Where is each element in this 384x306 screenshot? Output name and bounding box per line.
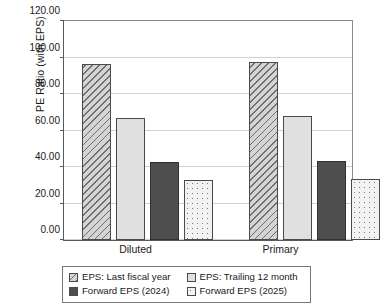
legend-swatch-light-icon (187, 273, 196, 282)
legend-label-1: EPS: Trailing 12 month (200, 270, 298, 284)
legend-item-forward-eps-2025[interactable]: Forward EPS (2025) (187, 284, 305, 298)
y-tick-label-2: 40.00 (35, 151, 60, 162)
bar-diluted-forward-eps-2024[interactable] (150, 162, 179, 240)
y-tick-label-0: 0.00 (41, 224, 60, 235)
y-tick-label-6: 120.00 (29, 5, 60, 16)
bar-primary-forward-eps-2024[interactable] (317, 161, 346, 240)
x-tick-label-diluted: Diluted (63, 243, 208, 255)
bar-group-primary (231, 21, 384, 240)
legend-swatch-dots-icon (187, 287, 196, 296)
legend-label-2: Forward EPS (2024) (82, 284, 169, 298)
y-tick-label-1: 20.00 (35, 187, 60, 198)
y-tick-label-3: 60.00 (35, 114, 60, 125)
legend-item-eps-trailing-12-month[interactable]: EPS: Trailing 12 month (187, 270, 305, 284)
legend-swatch-hatch-icon (69, 273, 78, 282)
bar-diluted-eps-last-fiscal-year[interactable] (82, 64, 111, 240)
legend-label-0: EPS: Last fiscal year (82, 270, 171, 284)
legend-swatch-dark-icon (69, 287, 78, 296)
legend-item-forward-eps-2024[interactable]: Forward EPS (2024) (69, 284, 187, 298)
x-axis-labels: Diluted Primary (63, 243, 353, 255)
legend-label-3: Forward EPS (2025) (200, 284, 287, 298)
y-tick-label-5: 100.00 (29, 41, 60, 52)
bar-diluted-eps-trailing-12-month[interactable] (116, 118, 145, 240)
bar-primary-forward-eps-2025[interactable] (351, 179, 380, 241)
bar-diluted-forward-eps-2025[interactable] (184, 180, 213, 240)
bar-group-diluted (64, 21, 231, 240)
x-tick-label-primary: Primary (208, 243, 353, 255)
chart-legend: EPS: Last fiscal year EPS: Trailing 12 m… (62, 266, 311, 303)
bar-primary-eps-trailing-12-month[interactable] (283, 116, 312, 240)
bar-primary-eps-last-fiscal-year[interactable] (249, 62, 278, 240)
bar-groups (64, 21, 352, 240)
y-tick-label-4: 80.00 (35, 78, 60, 89)
plot-area: 0.00 20.00 40.00 60.00 80.00 100.00 (63, 20, 353, 241)
legend-item-eps-last-fiscal-year[interactable]: EPS: Last fiscal year (69, 270, 187, 284)
